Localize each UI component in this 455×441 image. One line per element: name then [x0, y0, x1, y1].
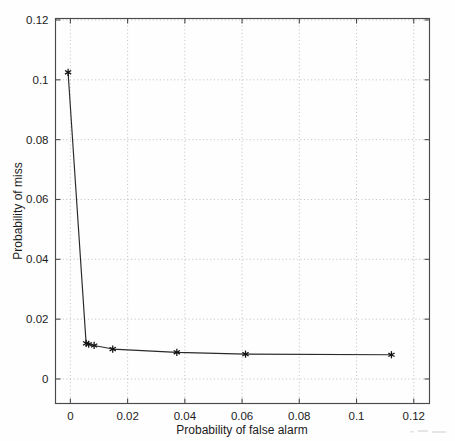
y-tick-label: 0.08 — [26, 134, 48, 146]
x-tick-label: 0.12 — [403, 410, 425, 422]
y-tick-label: 0.06 — [26, 193, 48, 205]
x-tick-label: 0.06 — [231, 410, 253, 422]
plot-background — [0, 0, 455, 441]
y-tick-label: 0.04 — [26, 253, 49, 265]
y-tick-label: 0 — [42, 373, 48, 385]
x-tick-label: 0.04 — [174, 410, 197, 422]
y-axis-label: Probability of miss — [11, 162, 25, 259]
x-tick-label: 0.08 — [288, 410, 310, 422]
x-tick-label: 0.02 — [116, 410, 138, 422]
figure-canvas: 00.020.040.060.080.10.12 00.020.040.060.… — [0, 0, 455, 441]
y-tick-label: 0.12 — [26, 14, 48, 26]
x-tick-label: 0.1 — [349, 410, 365, 422]
y-tick-label: 0.02 — [26, 313, 48, 325]
x-axis-label: Probability of false alarm — [176, 423, 307, 437]
x-tick-label: 0 — [67, 410, 73, 422]
y-tick-label: 0.1 — [33, 74, 49, 86]
det-curve-plot: 00.020.040.060.080.10.12 00.020.040.060.… — [0, 0, 455, 441]
